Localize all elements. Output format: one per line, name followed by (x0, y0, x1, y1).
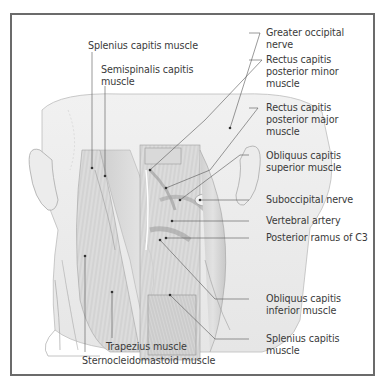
label-rectus-capitis-posterior-major: Rectus capitis posterior major muscle (266, 102, 338, 138)
label-greater-occipital-nerve: Greater occipital nerve (266, 27, 344, 51)
label-obliquus-capitis-inferior: Obliquus capitis inferior muscle (266, 293, 341, 317)
label-splenius-capitis-top: Splenius capitis muscle (88, 40, 198, 52)
label-splenius-capitis-bottom: Splenius capitis muscle (266, 333, 339, 357)
label-rectus-capitis-posterior-minor: Rectus capitis posterior minor muscle (266, 54, 339, 90)
label-obliquus-capitis-superior: Obliquus capitis superior muscle (266, 150, 341, 174)
label-trapezius: Trapezius muscle (106, 341, 187, 353)
label-sternocleidomastoid: Sternocleidomastoid muscle (82, 355, 215, 367)
label-suboccipital-nerve: Suboccipital nerve (266, 194, 353, 206)
label-posterior-ramus-c3: Posterior ramus of C3 (266, 232, 368, 244)
label-semispinalis-capitis: Semispinalis capitis muscle (101, 64, 193, 88)
label-vertebral-artery: Vertebral artery (266, 215, 340, 227)
